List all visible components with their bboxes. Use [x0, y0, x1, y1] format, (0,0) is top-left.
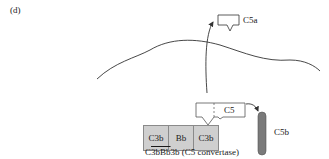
c5a-fragment-icon	[218, 15, 239, 31]
c5b-arrow-icon	[246, 104, 258, 111]
c3b-label: C3b	[148, 133, 163, 143]
convertase-caption: C3bBb3b (C5 convertase)	[145, 148, 239, 157]
bb-label: Bb	[176, 133, 187, 143]
c5b-label: C5b	[274, 128, 289, 137]
release-arrow-icon	[206, 22, 213, 93]
cell-membrane-curve	[97, 40, 320, 79]
c5a-label: C5a	[243, 16, 258, 25]
c5-label: C5	[224, 106, 235, 115]
c5b-rod-icon	[258, 112, 266, 155]
caption-overlined: 3bBb	[151, 147, 171, 157]
c3b-label: C3b	[198, 133, 213, 143]
c5-molecule-icon	[196, 103, 245, 125]
caption-suffix: 3b (C5 convertase)	[171, 147, 239, 157]
